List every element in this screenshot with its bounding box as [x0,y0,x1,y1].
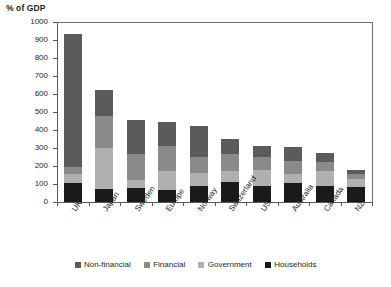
legend-swatch-icon [144,262,150,268]
plot-frame-right [372,22,373,203]
y-axis-tick-label: 100 [35,179,48,188]
y-axis-tick-label: 0 [44,197,48,206]
bar-segment-households[interactable] [64,183,82,202]
x-axis-tick [89,202,90,206]
y-axis-tick-label: 300 [35,143,48,152]
bar-segment-financial[interactable] [64,167,82,175]
y-axis-tick-label: 200 [35,161,48,170]
legend-swatch-icon [198,262,204,268]
bar-segment-government[interactable] [316,171,334,186]
bar-segment-non-financial[interactable] [190,126,208,158]
legend-item-financial[interactable]: Financial [144,260,186,269]
plot-area [57,22,372,202]
legend-label: Financial [153,260,185,269]
legend-label: Government [208,260,252,269]
bar-segment-financial[interactable] [158,146,176,171]
bar-segment-financial[interactable] [316,162,334,170]
bar-segment-non-financial[interactable] [221,139,239,154]
bar-segment-government[interactable] [190,173,208,186]
bar-segment-financial[interactable] [284,161,302,175]
bar-segment-government[interactable] [127,180,145,188]
bar-segment-non-financial[interactable] [64,34,82,167]
y-axis-tick-label: 400 [35,125,48,134]
legend-label: Non-financial [84,260,131,269]
bar-segment-non-financial[interactable] [158,122,176,147]
bar-stack[interactable] [64,34,82,202]
bar-segment-financial[interactable] [127,154,145,179]
bar-segment-financial[interactable] [253,157,271,170]
x-axis-tick [278,202,279,206]
bar-segment-non-financial[interactable] [95,90,113,116]
legend-item-households[interactable]: Households [265,260,317,269]
legend-item-government[interactable]: Government [198,260,252,269]
axis-title: % of GDP [6,3,46,13]
bar-segment-government[interactable] [158,171,176,189]
bar-stack[interactable] [190,126,208,202]
x-axis-tick [183,202,184,206]
x-axis-tick [57,202,58,206]
bar-segment-households[interactable] [347,187,365,202]
bar-segment-non-financial[interactable] [127,120,145,154]
x-axis-tick [120,202,121,206]
bar-segment-non-financial[interactable] [284,147,302,161]
bar-segment-non-financial[interactable] [316,153,334,162]
chart-legend: Non-financialFinancialGovernmentHousehol… [0,260,391,269]
legend-label: Households [274,260,316,269]
x-axis-tick [152,202,153,206]
y-axis-tick-label: 700 [35,71,48,80]
bar-stack[interactable] [347,170,365,202]
bar-segment-government[interactable] [347,179,365,187]
x-axis-tick [372,202,373,206]
legend-item-non-financial[interactable]: Non-financial [75,260,131,269]
bar-segment-government[interactable] [221,171,239,182]
bar-segment-government[interactable] [284,174,302,183]
bar-stack[interactable] [158,122,176,202]
y-axis-tick-label: 500 [35,107,48,116]
y-axis-tick-label: 800 [35,53,48,62]
bar-stack[interactable] [95,90,113,202]
y-axis-tick-label: 900 [35,35,48,44]
x-axis-tick [215,202,216,206]
x-axis-tick [309,202,310,206]
bar-segment-non-financial[interactable] [253,146,271,157]
x-axis-tick [341,202,342,206]
y-axis-tick-label: 1000 [30,17,48,26]
bar-segment-households[interactable] [253,186,271,202]
legend-swatch-icon [265,262,271,268]
bar-segment-government[interactable] [95,148,113,189]
bar-segment-financial[interactable] [221,154,239,170]
legend-swatch-icon [75,262,81,268]
bar-segment-financial[interactable] [190,157,208,173]
x-axis-tick [246,202,247,206]
bar-segment-government[interactable] [64,174,82,183]
bar-stack[interactable] [253,146,271,202]
bar-stack[interactable] [127,120,145,202]
y-axis-tick-label: 600 [35,89,48,98]
bar-segment-financial[interactable] [95,116,113,148]
